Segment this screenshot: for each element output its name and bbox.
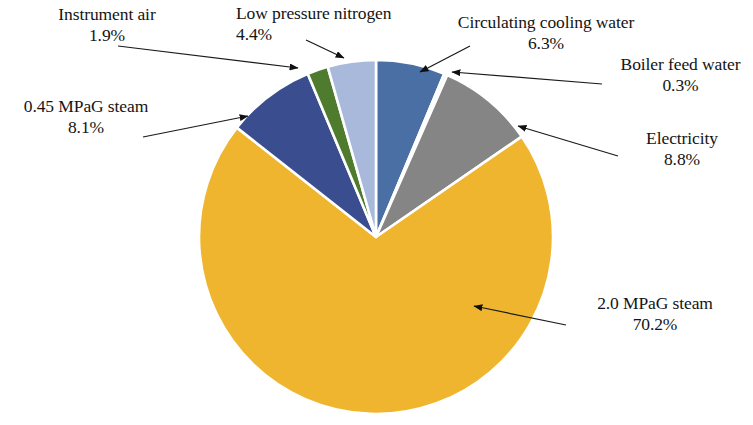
callout-steam-045: 0.45 MPaG steam 8.1% xyxy=(2,96,170,138)
callout-electricity: Electricity 8.8% xyxy=(620,128,744,170)
callout-steam-20-label: 2.0 MPaG steam xyxy=(570,293,740,314)
callout-electricity-value: 8.8% xyxy=(620,149,744,170)
callout-boiler-feed-water-label: Boiler feed water xyxy=(608,54,753,75)
callout-low-pressure-nitrogen-value: 4.4% xyxy=(236,24,391,45)
callout-instrument-air-value: 1.9% xyxy=(14,25,200,46)
callout-steam-20-value: 70.2% xyxy=(570,314,740,335)
callout-low-pressure-nitrogen: Low pressure nitrogen 4.4% xyxy=(236,3,391,45)
callout-instrument-air-label: Instrument air xyxy=(14,4,200,25)
leader-line-instrument-air xyxy=(118,46,298,68)
callout-steam-045-value: 8.1% xyxy=(2,117,170,138)
pie-chart-figure: Instrument air 1.9% Low pressure nitroge… xyxy=(0,0,753,425)
callout-instrument-air: Instrument air 1.9% xyxy=(14,4,200,46)
callout-steam-20: 2.0 MPaG steam 70.2% xyxy=(570,293,740,335)
callout-boiler-feed-water-value: 0.3% xyxy=(608,75,753,96)
leader-line-boiler-feed-water xyxy=(452,72,602,84)
callout-boiler-feed-water: Boiler feed water 0.3% xyxy=(608,54,753,96)
callout-low-pressure-nitrogen-label: Low pressure nitrogen xyxy=(236,3,391,24)
callout-electricity-label: Electricity xyxy=(620,128,744,149)
callout-circulating-cooling-water: Circulating cooling water 6.3% xyxy=(437,12,655,54)
leader-line-electricity xyxy=(518,126,618,156)
callout-circulating-cooling-water-label: Circulating cooling water xyxy=(437,12,655,33)
callout-circulating-cooling-water-value: 6.3% xyxy=(437,33,655,54)
pie-slices-group xyxy=(199,60,553,414)
callout-steam-045-label: 0.45 MPaG steam xyxy=(2,96,170,117)
